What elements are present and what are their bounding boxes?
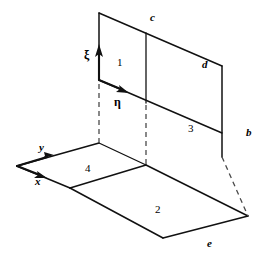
edge-label-e: e	[207, 238, 212, 249]
edge-e-line	[163, 216, 248, 238]
face4-right-edge-line	[99, 143, 146, 165]
hidden-right-vertical-line	[222, 157, 248, 216]
x-axis-line	[17, 166, 40, 175]
axis-label-eta: η	[114, 96, 121, 108]
folded-plate-diagram	[0, 0, 266, 254]
face-label-4: 4	[85, 163, 91, 174]
face2-left-edge-line	[70, 188, 163, 238]
axis-label-y: y	[39, 142, 44, 153]
face4-front-edge-line	[70, 165, 146, 188]
edge-label-c: c	[150, 12, 155, 23]
axis-label-xi: ξ	[84, 49, 89, 61]
eta-axis-line	[99, 80, 123, 90]
face2-right-edge-line	[146, 165, 248, 216]
figure-container: 1 2 3 4 c d b e y x ξ η	[0, 0, 266, 254]
axis-label-x: x	[35, 176, 41, 187]
edge-label-b: b	[246, 127, 252, 138]
edge-label-d: d	[202, 59, 208, 70]
face-label-1: 1	[117, 57, 123, 68]
face-label-3: 3	[188, 123, 194, 134]
face-label-2: 2	[155, 204, 161, 215]
